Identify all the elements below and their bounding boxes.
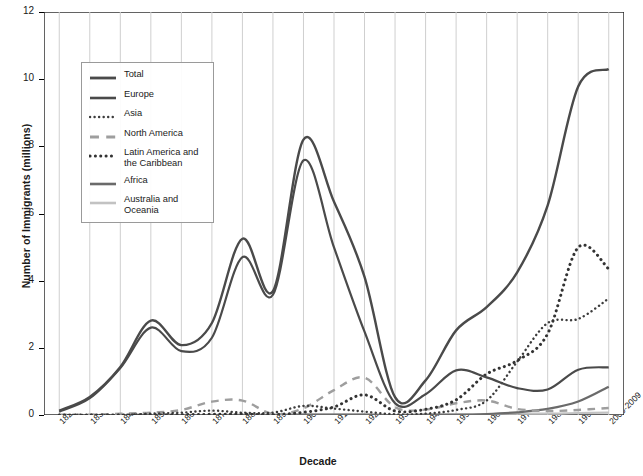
x-axis-label: Decade xyxy=(0,455,636,467)
legend-item[interactable]: Africa xyxy=(89,175,206,188)
legend-item[interactable]: North America xyxy=(89,128,206,141)
legend-item[interactable]: Latin America and the Caribbean xyxy=(89,147,206,168)
legend-label: Europe xyxy=(124,89,154,100)
legend-swatch-north-america xyxy=(89,129,117,141)
legend-label: Africa xyxy=(124,175,148,186)
y-tick-label: 4 xyxy=(8,274,34,285)
legend-item[interactable]: Total xyxy=(89,69,206,82)
y-tick-label: 8 xyxy=(8,139,34,150)
legend-item[interactable]: Asia xyxy=(89,108,206,121)
y-tick-label: 6 xyxy=(8,207,34,218)
y-tick-label: 0 xyxy=(8,408,34,419)
y-tick-mark xyxy=(39,415,44,416)
legend-swatch-australia-and-oceania xyxy=(89,195,117,207)
legend-label: Australia and Oceania xyxy=(124,194,206,215)
legend-item[interactable]: Australia and Oceania xyxy=(89,194,206,215)
legend-swatch-africa xyxy=(89,176,117,188)
legend-item[interactable]: Europe xyxy=(89,89,206,102)
legend-label: Total xyxy=(124,69,144,80)
legend-label: North America xyxy=(124,128,183,139)
legend-swatch-latin-america-and-the-caribbean xyxy=(89,148,117,160)
y-tick-label: 12 xyxy=(8,5,34,16)
chart-legend: TotalEuropeAsiaNorth AmericaLatin Americ… xyxy=(81,62,214,223)
legend-label: Latin America and the Caribbean xyxy=(124,147,206,168)
legend-swatch-europe xyxy=(89,90,117,102)
legend-label: Asia xyxy=(124,108,142,119)
y-tick-label: 10 xyxy=(8,72,34,83)
y-tick-label: 2 xyxy=(8,341,34,352)
legend-swatch-asia xyxy=(89,109,117,121)
legend-swatch-total xyxy=(89,70,117,82)
